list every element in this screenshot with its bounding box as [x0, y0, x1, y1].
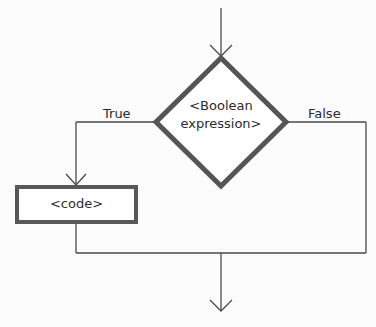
- flowchart-canvas: True False <Boolean expression> <code>: [0, 0, 376, 327]
- true-branch-connector: [66, 122, 154, 185]
- decision-text-line1: <Boolean: [171, 97, 271, 115]
- flowchart-graphics: [0, 0, 376, 327]
- decision-text-line2: expression>: [171, 115, 271, 133]
- process-box-label: <code>: [15, 197, 138, 210]
- entry-arrow: [210, 8, 232, 56]
- decision-text: <Boolean expression>: [171, 97, 271, 133]
- true-branch-label: True: [103, 107, 131, 120]
- merge-connector: [76, 224, 366, 253]
- false-branch-connector: [288, 122, 366, 253]
- false-branch-label: False: [308, 107, 341, 120]
- exit-arrow: [210, 253, 232, 311]
